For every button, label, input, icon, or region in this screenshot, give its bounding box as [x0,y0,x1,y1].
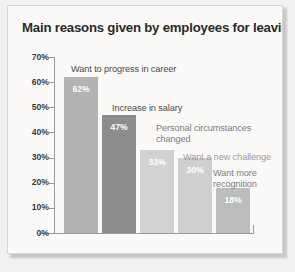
figure-card: Main reasons given by employees for leav… [7,5,283,254]
figure-container: Main reasons given by employees for leav… [0,0,295,272]
annotation-bar-3: Want a new challenge [183,152,271,163]
bar-value-label: 62% [64,85,98,94]
bar-value-label: 47% [102,123,136,132]
annotation-bar-4: Want more recognition [213,168,257,190]
bar: 30% [178,158,212,233]
bar: 18% [216,188,250,233]
bar: 62% [64,77,98,233]
bar: 47% [102,115,136,233]
bar-value-label: 30% [178,166,212,175]
bar: 33% [140,150,174,233]
bar-value-label: 18% [216,196,250,205]
annotation-bar-2: Personal circumstances changed [156,123,251,145]
bar-value-label: 33% [140,158,174,167]
annotation-bar-0: Want to progress in career [71,64,176,75]
annotation-bar-1: Increase in salary [112,103,182,114]
